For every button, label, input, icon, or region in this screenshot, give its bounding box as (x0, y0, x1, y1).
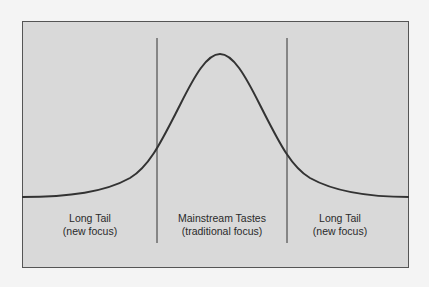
region-right-label: Long Tail (new focus) (308, 212, 372, 238)
long-tail-diagram (0, 0, 429, 287)
region-right-title: Long Tail (308, 212, 372, 225)
region-center-title: Mainstream Tastes (172, 212, 272, 225)
region-left-label: Long Tail (new focus) (58, 212, 122, 238)
region-left-title: Long Tail (58, 212, 122, 225)
region-right-subtitle: (new focus) (308, 225, 372, 238)
region-center-label: Mainstream Tastes (traditional focus) (172, 212, 272, 238)
region-center-subtitle: (traditional focus) (172, 225, 272, 238)
region-left-subtitle: (new focus) (58, 225, 122, 238)
